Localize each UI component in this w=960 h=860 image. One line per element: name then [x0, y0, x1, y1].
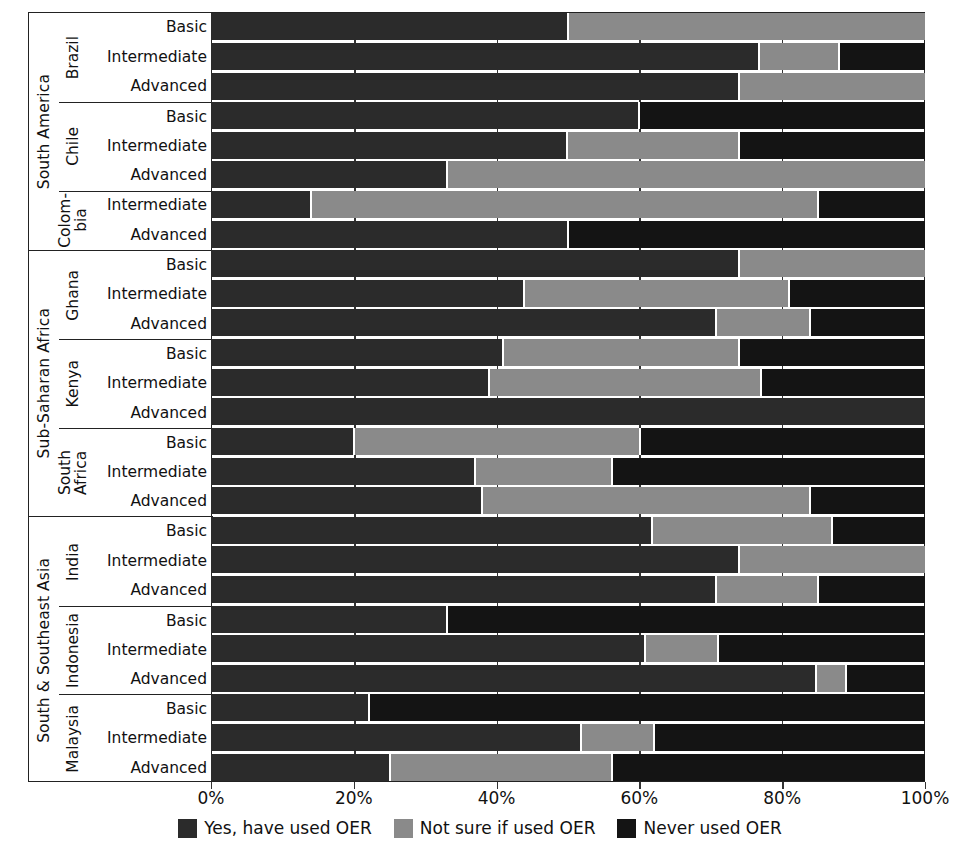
bar-segment [446, 606, 925, 633]
bar-row [211, 191, 925, 218]
bar-segment [211, 339, 502, 366]
country-label: Kenya [59, 340, 89, 428]
bar-row [211, 132, 925, 159]
level-label: Basic [89, 614, 207, 630]
bar-segment [845, 665, 925, 692]
legend-item[interactable]: Yes, have used OER [178, 818, 372, 838]
level-label-column: IntermediateAdvanced [89, 192, 213, 250]
level-label: Intermediate [89, 731, 207, 747]
bar-segment [474, 458, 611, 485]
level-label: Intermediate [89, 465, 207, 481]
level-label: Advanced [89, 79, 207, 95]
bar-row [211, 428, 925, 455]
country-group: GhanaBasicIntermediateAdvanced [59, 251, 213, 340]
bar-segment [211, 665, 815, 692]
bar-segment [566, 132, 738, 159]
level-label: Advanced [89, 672, 207, 688]
bar-row [211, 694, 925, 721]
level-label: Basic [89, 110, 207, 126]
bar-segment [715, 576, 816, 603]
bar-segment [389, 754, 611, 781]
level-label-column: BasicIntermediateAdvanced [89, 103, 213, 191]
bar-segment [738, 73, 925, 100]
bar-segment [831, 517, 925, 544]
bar-segment [638, 102, 925, 129]
bar-row [211, 369, 925, 396]
bar-segment [211, 546, 738, 573]
level-label: Intermediate [89, 198, 207, 214]
bar-segment [211, 43, 758, 70]
bar-segment [211, 754, 389, 781]
bar-segment [211, 428, 353, 455]
bar-segment [788, 280, 925, 307]
bar-segment [567, 221, 925, 248]
level-label: Advanced [89, 168, 207, 184]
bar-segment [211, 250, 738, 277]
bar-row [211, 221, 925, 248]
legend-label: Not sure if used OER [420, 818, 596, 838]
legend-swatch [178, 819, 197, 838]
level-label: Advanced [89, 494, 207, 510]
country-label: Chile [59, 103, 89, 191]
x-tick-label: 0% [198, 788, 225, 808]
bar-segment [838, 43, 925, 70]
bar-row [211, 517, 925, 544]
bar-row [211, 309, 925, 336]
region-label: South & Southeast Asia [29, 517, 59, 783]
bar-segment [611, 754, 925, 781]
bar-segment [817, 576, 926, 603]
bar-segment [717, 635, 925, 662]
region-group: Sub-Saharan AfricaGhanaBasicIntermediate… [29, 250, 213, 517]
bar-row [211, 161, 925, 188]
country-column: GhanaBasicIntermediateAdvancedKenyaBasic… [59, 251, 213, 517]
bar-segment [211, 73, 738, 100]
bar-row [211, 398, 925, 425]
region-label: South America [29, 13, 59, 250]
country-group: KenyaBasicIntermediateAdvanced [59, 339, 213, 428]
level-label: Intermediate [89, 139, 207, 155]
bar-segment [502, 339, 738, 366]
level-label: Basic [89, 702, 207, 718]
legend-swatch [617, 819, 636, 838]
country-label: India [59, 517, 89, 606]
bar-row [211, 458, 925, 485]
region-label: Sub-Saharan Africa [29, 251, 59, 517]
bars-layer [211, 12, 925, 782]
level-label-column: BasicIntermediateAdvanced [89, 607, 213, 695]
bar-row [211, 43, 925, 70]
bar-segment [211, 369, 488, 396]
level-label-column: BasicIntermediateAdvanced [89, 517, 213, 606]
country-label: Malaysia [59, 695, 89, 783]
level-label: Intermediate [89, 50, 207, 66]
level-label: Advanced [89, 406, 207, 422]
country-group: BrazilBasicIntermediateAdvanced [59, 13, 213, 102]
country-group: MalaysiaBasicIntermediateAdvanced [59, 694, 213, 783]
level-label: Basic [89, 347, 207, 363]
bar-segment [368, 694, 925, 721]
bar-segment [738, 132, 925, 159]
bar-segment [211, 576, 715, 603]
bar-row [211, 250, 925, 277]
bar-row [211, 576, 925, 603]
level-label-column: BasicIntermediateAdvanced [89, 340, 213, 428]
legend-label: Never used OER [643, 818, 781, 838]
country-group: IndonesiaBasicIntermediateAdvanced [59, 606, 213, 695]
bar-segment [715, 309, 809, 336]
legend-item[interactable]: Never used OER [617, 818, 781, 838]
bar-row [211, 102, 925, 129]
bar-segment [760, 369, 925, 396]
x-tick-label: 80% [763, 788, 801, 808]
bar-segment [758, 43, 838, 70]
bar-row [211, 339, 925, 366]
level-label: Intermediate [89, 643, 207, 659]
bar-segment [738, 339, 925, 366]
country-label: South Africa [59, 429, 89, 517]
bar-row [211, 635, 925, 662]
legend-swatch [394, 819, 413, 838]
legend-item[interactable]: Not sure if used OER [394, 818, 596, 838]
bar-row [211, 724, 925, 751]
region-group: South AmericaBrazilBasicIntermediateAdva… [29, 13, 213, 250]
bar-segment [653, 724, 925, 751]
bar-segment [211, 221, 567, 248]
bar-segment [211, 517, 651, 544]
